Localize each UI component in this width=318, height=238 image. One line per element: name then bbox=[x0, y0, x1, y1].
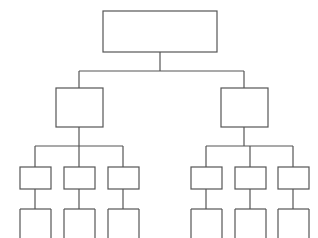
leaf-stem-group-e bbox=[235, 209, 266, 238]
node-root[interactable] bbox=[103, 11, 217, 52]
node-l3-a-box[interactable] bbox=[20, 167, 51, 189]
node-l2-left-box[interactable] bbox=[56, 88, 103, 127]
node-l3-f-box[interactable] bbox=[278, 167, 309, 189]
node-l3-c[interactable] bbox=[108, 167, 139, 189]
node-l3-b[interactable] bbox=[64, 167, 95, 189]
node-layer bbox=[20, 11, 309, 189]
node-l3-d[interactable] bbox=[191, 167, 222, 189]
node-l2-left[interactable] bbox=[56, 88, 103, 127]
node-l3-e-box[interactable] bbox=[235, 167, 266, 189]
org-chart-canvas bbox=[0, 0, 318, 238]
node-l2-right[interactable] bbox=[221, 88, 268, 127]
org-chart-svg bbox=[0, 0, 318, 238]
connector-level4-drops bbox=[35, 189, 293, 209]
leaf-stem-group-b bbox=[64, 209, 95, 238]
node-l3-e[interactable] bbox=[235, 167, 266, 189]
node-l3-b-box[interactable] bbox=[64, 167, 95, 189]
connector-level3-risers bbox=[35, 146, 293, 167]
node-l3-d-box[interactable] bbox=[191, 167, 222, 189]
leaf-stem-group-f bbox=[278, 209, 309, 238]
leaf-stem-group-c bbox=[108, 209, 139, 238]
node-l2-right-box[interactable] bbox=[221, 88, 268, 127]
leaf-stem-group-a bbox=[20, 209, 51, 238]
node-l3-c-box[interactable] bbox=[108, 167, 139, 189]
node-l3-a[interactable] bbox=[20, 167, 51, 189]
node-root-box[interactable] bbox=[103, 11, 217, 52]
node-l3-f[interactable] bbox=[278, 167, 309, 189]
connector-level2-risers bbox=[79, 71, 244, 88]
connector-level2-drops bbox=[79, 127, 244, 146]
leaf-stem-group-d bbox=[191, 209, 222, 238]
connector-layer bbox=[20, 52, 309, 238]
